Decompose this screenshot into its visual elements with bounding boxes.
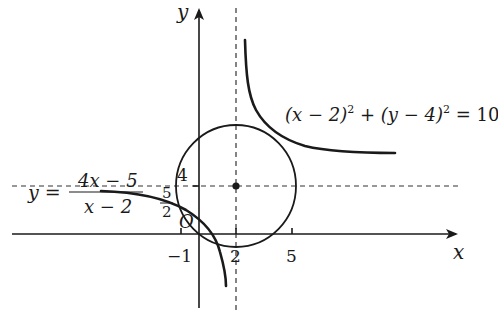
hyperbola-upper-branch	[245, 40, 395, 153]
y-axis-label: y	[176, 0, 189, 24]
circle-eq-part3: = 10	[450, 104, 498, 125]
tick-label-x-2: 2	[230, 246, 241, 266]
circle-eq-exp2: 2	[443, 103, 450, 116]
x-axis-label: x	[453, 240, 464, 264]
tick-label-x-5: 5	[286, 246, 297, 266]
hyperbola-denominator: x − 2	[84, 196, 132, 217]
tick-label-y-4: 4	[177, 165, 188, 185]
hyperbola-numerator: 4x − 5	[77, 170, 138, 191]
circle-eq-part2: + (y − 4)	[354, 104, 443, 125]
fraction-numerator: 5	[162, 184, 172, 202]
center-point	[232, 182, 239, 189]
tick-label-x-neg1: −1	[167, 246, 192, 266]
tick-label-y-5-over-2: 5 2	[160, 184, 173, 221]
hyperbola-lhs: y =	[27, 181, 61, 203]
fraction-denominator: 2	[162, 203, 172, 221]
origin-label: O	[179, 211, 194, 232]
circle-eq-part1: (x − 2)	[285, 104, 347, 125]
circle-equation: (x − 2)2 + (y − 4)2 = 10	[285, 103, 498, 125]
coordinate-diagram: y x O −1 2 5 4 5 2 y = 4x − 5 x − 2 (x −…	[0, 0, 498, 311]
circle-eq-exp1: 2	[347, 103, 354, 116]
